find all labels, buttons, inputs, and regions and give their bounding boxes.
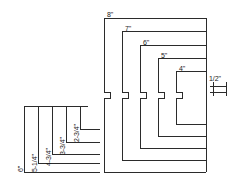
dim-label-7in: 7" (125, 25, 131, 32)
technical-drawing-canvas: 8" 7" 6" 5" 4" 1/2" 6" 5-1/4" 4-3/4" 3-3… (0, 0, 233, 179)
profile-4in (176, 92, 206, 124)
dim-label-2-75in: 2-3/4" (73, 124, 80, 142)
dim-label-5in: 5" (161, 52, 167, 59)
profile-6in (140, 92, 206, 148)
dim-label-4in: 4" (179, 65, 185, 72)
dim-label-half-inch: 1/2" (209, 75, 221, 82)
dim-label-4-75in: 4-3/4" (45, 148, 52, 166)
profile-7in (122, 92, 206, 160)
profile-5in (158, 92, 206, 136)
dim-label-5-25in: 5-1/4" (31, 154, 38, 172)
dim-label-6in-top: 6" (143, 39, 149, 46)
drawing-linework (0, 0, 233, 179)
dim-label-3-75in: 3-3/4" (59, 137, 66, 155)
dim-label-6in-left: 6" (17, 166, 24, 172)
dim-label-8in: 8" (107, 11, 113, 18)
